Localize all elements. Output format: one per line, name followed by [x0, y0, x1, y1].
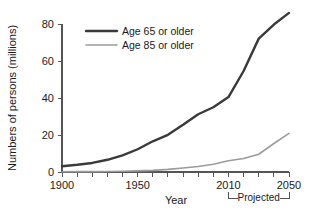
x-tick-label: 1950	[125, 179, 149, 191]
projected-annotation: Projected	[229, 192, 290, 203]
x-axis-tick-labels: 1900195020102050	[50, 179, 301, 191]
x-tick-label: 2050	[277, 179, 301, 191]
y-tick-label: 80	[42, 18, 54, 30]
legend-label-age-85: Age 85 or older	[122, 39, 194, 51]
y-tick-label: 0	[48, 166, 54, 178]
chart-container: 020406080 1900195020102050 Numbers of pe…	[0, 0, 310, 220]
y-axis-ticks	[58, 24, 62, 172]
legend: Age 65 or older Age 85 or older	[86, 25, 194, 51]
series-line-age-85	[62, 133, 289, 171]
x-tick-label: 2010	[216, 179, 240, 191]
y-tick-label: 40	[42, 92, 54, 104]
y-axis-tick-labels: 020406080	[42, 18, 54, 178]
y-axis-title: Numbers of persons (millions)	[6, 25, 18, 171]
projected-label: Projected	[238, 192, 280, 203]
x-tick-label: 1900	[50, 179, 74, 191]
y-tick-label: 60	[42, 55, 54, 67]
projected-bracket-right	[280, 192, 289, 198]
x-axis-title: Year	[165, 194, 188, 206]
y-tick-label: 20	[42, 129, 54, 141]
projected-bracket-left	[229, 192, 238, 198]
legend-label-age-65: Age 65 or older	[122, 25, 194, 37]
line-chart: 020406080 1900195020102050 Numbers of pe…	[0, 0, 310, 220]
x-axis-ticks	[62, 172, 289, 177]
